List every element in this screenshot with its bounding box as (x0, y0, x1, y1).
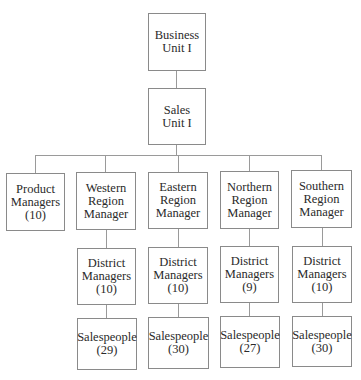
connector-northern-district-to-sales (249, 302, 250, 316)
node-northern-region-manager: Northern Region Manager (220, 171, 279, 229)
node-label: Northern Region Manager (227, 181, 272, 220)
node-sales-unit: Sales Unit I (148, 88, 206, 145)
connector-bus-to-northern (249, 155, 250, 171)
node-northern-district-managers: District Managers (9) (220, 246, 279, 303)
connector-bus-to-product (35, 155, 36, 173)
connector-eastern-district-to-sales (178, 303, 179, 317)
node-eastern-salespeople: Salespeople (30) (148, 317, 209, 369)
node-western-salespeople: Salespeople (29) (77, 318, 137, 370)
node-label: District Managers (9) (225, 255, 274, 294)
node-label: Salespeople (27) (220, 329, 280, 355)
connector-western-to-district (106, 229, 107, 249)
node-label: Salespeople (29) (77, 331, 137, 357)
node-label: Eastern Region Manager (156, 181, 200, 220)
node-label: District Managers (10) (153, 256, 202, 295)
node-business-unit: Business Unit I (148, 13, 206, 71)
connector-western-district-to-sales (106, 304, 107, 318)
node-label: Southern Region Manager (299, 180, 344, 219)
connector-northern-to-district (249, 228, 250, 247)
node-label: Western Region Manager (84, 182, 128, 221)
node-southern-salespeople: Salespeople (30) (292, 316, 352, 367)
node-western-region-manager: Western Region Manager (76, 172, 136, 230)
connector-eastern-to-district (178, 228, 179, 248)
node-western-district-managers: District Managers (10) (77, 248, 136, 305)
node-label: Salespeople (30) (292, 329, 352, 355)
connector-southern-to-district (322, 227, 323, 247)
node-label: Sales Unit I (162, 104, 192, 130)
node-southern-district-managers: District Managers (10) (292, 246, 352, 303)
node-label: Business Unit I (155, 29, 199, 55)
node-southern-region-manager: Southern Region Manager (291, 170, 352, 228)
connector-business-to-sales (176, 70, 177, 88)
node-label: Product Managers (10) (11, 183, 60, 222)
node-eastern-region-manager: Eastern Region Manager (148, 172, 208, 229)
node-label: District Managers (10) (297, 255, 346, 294)
node-northern-salespeople: Salespeople (27) (220, 316, 280, 368)
node-label: District Managers (10) (82, 257, 131, 296)
connector-bus-to-eastern (178, 155, 179, 172)
node-label: Salespeople (30) (149, 330, 209, 356)
connector-bus-to-southern (321, 155, 322, 170)
org-chart: Business Unit I Sales Unit I Product Man… (0, 0, 361, 380)
node-eastern-district-managers: District Managers (10) (148, 247, 208, 304)
connector-southern-district-to-sales (322, 302, 323, 316)
node-product-managers: Product Managers (10) (6, 173, 65, 231)
connector-bus-to-western (105, 155, 106, 172)
